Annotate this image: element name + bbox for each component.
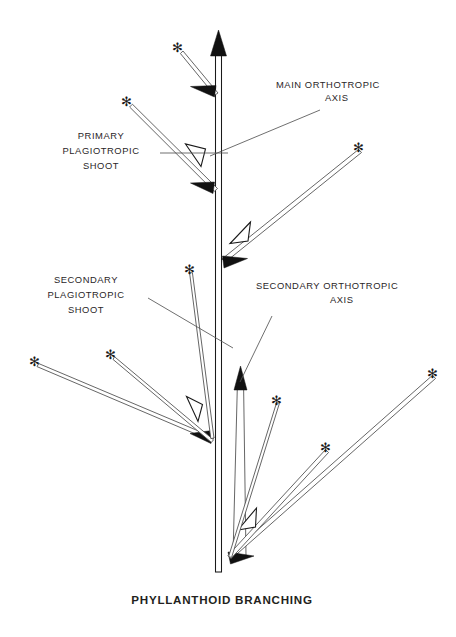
branch-tip-asterisk: ✻	[320, 440, 331, 455]
label-secondary-plagiotropic-shoot-line2: PLAGIOTROPIC	[48, 289, 125, 300]
label-primary-plagiotropic-shoot-line1: PRIMARY	[78, 130, 125, 141]
label-primary-plagiotropic-shoot-line2: PLAGIOTROPIC	[63, 145, 140, 156]
label-secondary-orthotropic-axis-line2: AXIS	[330, 294, 354, 305]
figure-caption: PHYLLANTHOID BRANCHING	[131, 593, 312, 606]
branch-tip-asterisk: ✻	[29, 354, 40, 369]
hollow-arrowhead	[230, 222, 251, 244]
branch-mid-left-long: ✻	[29, 354, 214, 444]
label-secondary-plagiotropic-shoot: SECONDARY PLAGIOTROPIC SHOOT	[48, 274, 125, 315]
branch-tip-asterisk: ✻	[427, 366, 438, 381]
phyllanthoid-branching-diagram: ✻ ✻ ✻ ✻ ✻ ✻ ✻ ✻	[0, 0, 456, 637]
branch-upper-left-1: ✻	[172, 40, 218, 97]
label-secondary-orthotropic-axis-line1: SECONDARY ORTHOTROPIC	[256, 280, 398, 291]
hollow-arrowhead	[187, 397, 203, 422]
label-secondary-plagiotropic-shoot-line1: SECONDARY	[54, 274, 118, 285]
label-primary-plagiotropic-shoot: PRIMARY PLAGIOTROPIC SHOOT	[63, 130, 140, 171]
branch-mid-left-short: ✻	[105, 347, 214, 442]
label-main-orthotropic-axis-line2: AXIS	[325, 92, 349, 103]
label-primary-plagiotropic-shoot-line3: SHOOT	[83, 160, 119, 171]
branch-tip-asterisk: ✻	[172, 40, 183, 55]
leader-main-orthotropic-axis	[210, 110, 320, 156]
branch-tip-asterisk: ✻	[184, 262, 195, 277]
leader-secondary-orthotropic-axis	[240, 316, 272, 382]
label-secondary-plagiotropic-shoot-line3: SHOOT	[68, 304, 104, 315]
branch-upper-right-1: ✻	[222, 140, 364, 268]
branch-upper-left-2: ✻	[121, 94, 218, 194]
label-main-orthotropic-axis: MAIN ORTHOTROPIC AXIS	[276, 79, 380, 103]
main-orthotropic-axis-stem	[211, 30, 227, 572]
branch-tip-asterisk: ✻	[271, 393, 282, 408]
branch-tip-asterisk: ✻	[353, 140, 364, 155]
branch-tip-asterisk: ✻	[105, 347, 116, 362]
label-secondary-orthotropic-axis: SECONDARY ORTHOTROPIC AXIS	[256, 280, 398, 305]
branch-tip-asterisk: ✻	[121, 94, 132, 109]
label-main-orthotropic-axis-line1: MAIN ORTHOTROPIC	[276, 79, 380, 90]
